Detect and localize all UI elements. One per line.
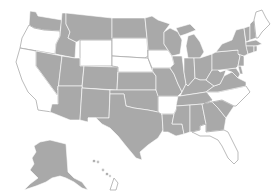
state-ks[interactable] [117, 72, 156, 90]
state-ne[interactable] [112, 56, 153, 72]
us-state-map [0, 0, 272, 193]
hawaii-big-island[interactable] [110, 178, 118, 190]
state-mt[interactable] [66, 13, 112, 42]
state-nd[interactable] [112, 18, 147, 38]
state-sd[interactable] [112, 38, 148, 58]
state-pa[interactable] [212, 50, 240, 70]
state-hi[interactable] [92, 159, 118, 190]
state-nm[interactable] [80, 88, 110, 122]
state-me[interactable] [254, 10, 270, 38]
state-mi-lower[interactable] [186, 34, 204, 58]
state-ak[interactable] [24, 140, 88, 190]
state-ut[interactable] [58, 56, 84, 90]
state-wy[interactable] [80, 40, 112, 66]
state-ri[interactable] [254, 46, 257, 52]
state-co[interactable] [82, 66, 118, 90]
